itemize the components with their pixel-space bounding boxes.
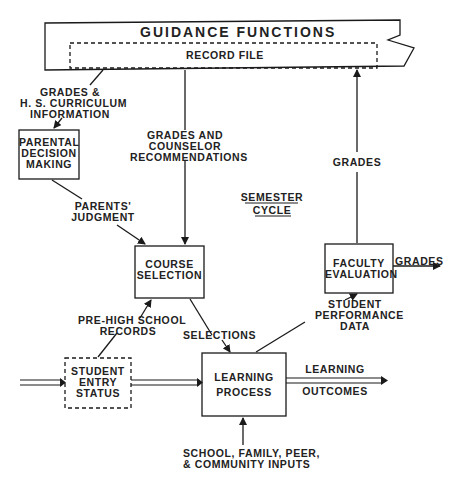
node-parental-decision: PARENTALDECISIONMAKING [19,137,79,170]
node-student-entry-status: STUDENTENTRYSTATUS [65,366,131,399]
edge-label-grades-hs: GRADES &H. S. CURRICULUMINFORMATION [20,87,120,120]
edge-label-student-performance: STUDENTPERFORMANCEDATA [315,299,395,332]
edge-label-selections: SELECTIONS [183,330,255,341]
edge-label-grades-counselor: GRADES ANDCOUNSELORRECOMMENDATIONS [130,130,240,163]
edge-label-grades-out: GRADES [395,256,439,267]
edge-label-outcomes: OUTCOMES [298,386,372,397]
edge-label-parents-judgment: PARENTS'JUDGMENT [68,201,138,223]
record-file-label: RECORD FILE [170,50,280,61]
diagram-lines [0,0,456,493]
edge-label-pre-high-school: PRE-HIGH SCHOOLRECORDS [78,315,178,337]
node-course-selection: COURSESELECTION [135,259,204,281]
guidance-functions-title: GUIDANCE FUNCTIONS [140,27,320,38]
semester-cycle-label: SEMESTERCYCLE [240,192,304,216]
edge-label-community-inputs: SCHOOL, FAMILY, PEER,& COMMUNITY INPUTS [183,448,323,470]
edge-label-learning: LEARNING [300,364,370,375]
node-faculty-evaluation: FACULTYEVALUATION [325,258,393,280]
edge-label-grades-up: GRADES [330,157,384,168]
node-learning-process: LEARNINGPROCESS [202,372,286,398]
